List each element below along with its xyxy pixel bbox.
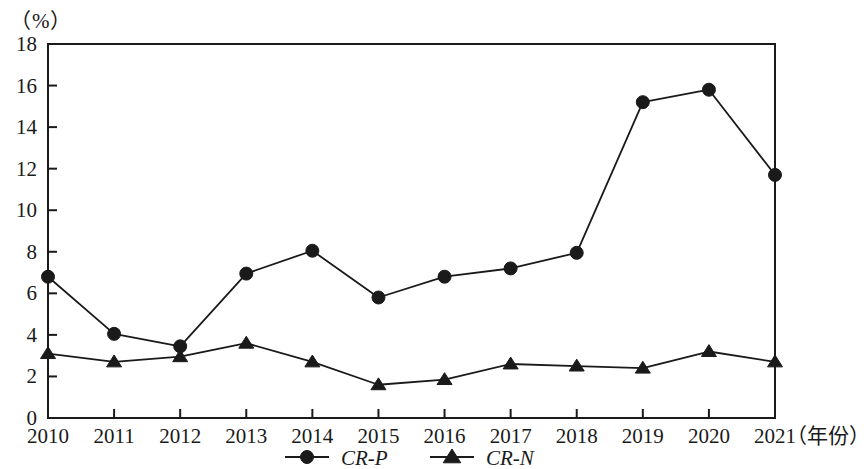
- x-tick-label: 2015: [357, 424, 399, 448]
- circle-marker: [636, 96, 649, 109]
- circle-marker: [372, 291, 385, 304]
- y-tick-label: 4: [27, 323, 38, 347]
- y-tick-label: 6: [27, 281, 38, 305]
- legend-label: CR-P: [341, 446, 388, 469]
- x-tick-label: 2016: [424, 424, 466, 448]
- x-tick-label: 2019: [622, 424, 664, 448]
- circle-marker: [42, 270, 55, 283]
- x-tick-label: 2014: [291, 424, 334, 448]
- circle-marker: [570, 246, 583, 259]
- legend-item-cr-p[interactable]: CR-P: [285, 446, 388, 469]
- triangle-marker: [503, 357, 518, 369]
- x-tick-label: 2018: [556, 424, 598, 448]
- x-tick-label: 2010: [27, 424, 69, 448]
- y-tick-label: 8: [27, 240, 38, 264]
- y-tick-label: 18: [16, 32, 37, 56]
- triangle-marker: [239, 336, 254, 348]
- x-tick-label: 2020: [688, 424, 730, 448]
- x-tick-label: 2021: [754, 424, 796, 448]
- y-tick-label: 16: [16, 74, 37, 98]
- circle-marker: [108, 327, 121, 340]
- y-tick-label: 14: [16, 115, 38, 139]
- circle-marker: [504, 262, 517, 275]
- circle-marker: [301, 451, 314, 464]
- series-cr-p: [42, 83, 782, 353]
- line-chart: （%） （年份） 024681012141618 201020112012201…: [0, 0, 864, 469]
- y-tick-label: 2: [27, 364, 38, 388]
- legend-item-cr-n[interactable]: CR-N: [430, 446, 535, 469]
- plot-area: 024681012141618 201020112012201320142015…: [0, 0, 864, 469]
- circle-marker: [769, 168, 782, 181]
- legend-label: CR-N: [486, 446, 535, 469]
- series-cr-n: [41, 336, 783, 389]
- y-tick-label: 10: [16, 198, 37, 222]
- chart-legend: CR-PCR-N: [285, 446, 535, 469]
- series-line: [48, 90, 775, 347]
- series-line: [48, 343, 775, 385]
- x-tick-label: 2011: [93, 424, 134, 448]
- y-tick-label: 12: [16, 157, 37, 181]
- x-tick-label: 2017: [490, 424, 532, 448]
- x-tick-label: 2013: [225, 424, 267, 448]
- y-tick-labels: 024681012141618: [16, 32, 38, 430]
- triangle-marker: [41, 347, 56, 359]
- circle-marker: [702, 83, 715, 96]
- circle-marker: [240, 267, 253, 280]
- triangle-marker: [443, 449, 461, 463]
- series-layer: [41, 83, 783, 390]
- x-tick-labels: 2010201120122013201420152016201720182019…: [27, 424, 796, 448]
- circle-marker: [438, 270, 451, 283]
- triangle-marker: [701, 345, 716, 357]
- circle-marker: [306, 244, 319, 257]
- x-tick-label: 2012: [159, 424, 201, 448]
